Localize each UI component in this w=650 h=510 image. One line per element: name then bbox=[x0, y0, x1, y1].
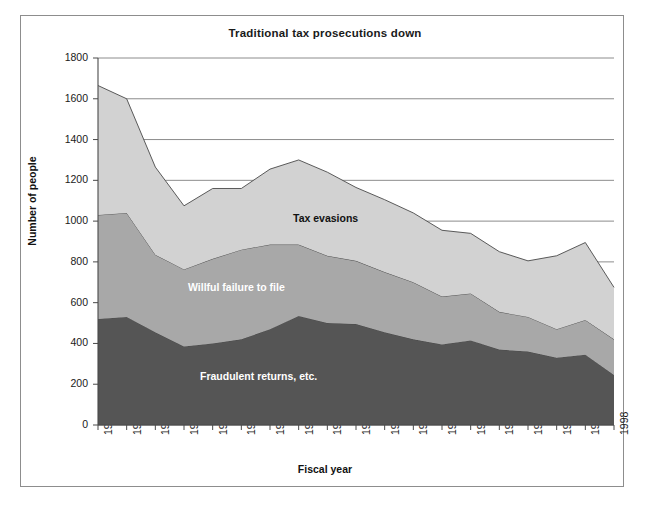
stacked-area-plot bbox=[0, 0, 650, 510]
series-label-tax-evasions: Tax evasions bbox=[293, 212, 358, 224]
series-label-willful-failure-to-file: Willful failure to file bbox=[188, 281, 285, 293]
figure-root: Traditional tax prosecutions down Number… bbox=[0, 0, 650, 510]
series-label-fraudulent-returns-etc: Fraudulent returns, etc. bbox=[200, 370, 317, 382]
